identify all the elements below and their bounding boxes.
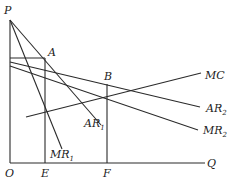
diagram-canvas: P A B MC AR2 MR2 AR1 MR1 O E F Q xyxy=(0,0,234,188)
mc-curve xyxy=(26,73,201,117)
label-p: P xyxy=(3,4,12,17)
label-a: A xyxy=(47,46,56,59)
label-o: O xyxy=(5,167,14,180)
label-b: B xyxy=(103,70,112,83)
label-mc: MC xyxy=(204,69,225,82)
label-q: Q xyxy=(207,157,216,170)
mr1-curve xyxy=(10,20,62,149)
ar2-curve xyxy=(10,62,200,107)
label-mr2: MR2 xyxy=(202,124,228,139)
label-e: E xyxy=(40,167,49,180)
label-ar1: AR1 xyxy=(83,117,105,132)
label-mr1: MR1 xyxy=(49,148,74,163)
label-f: F xyxy=(102,167,111,180)
label-ar2: AR2 xyxy=(205,102,227,117)
